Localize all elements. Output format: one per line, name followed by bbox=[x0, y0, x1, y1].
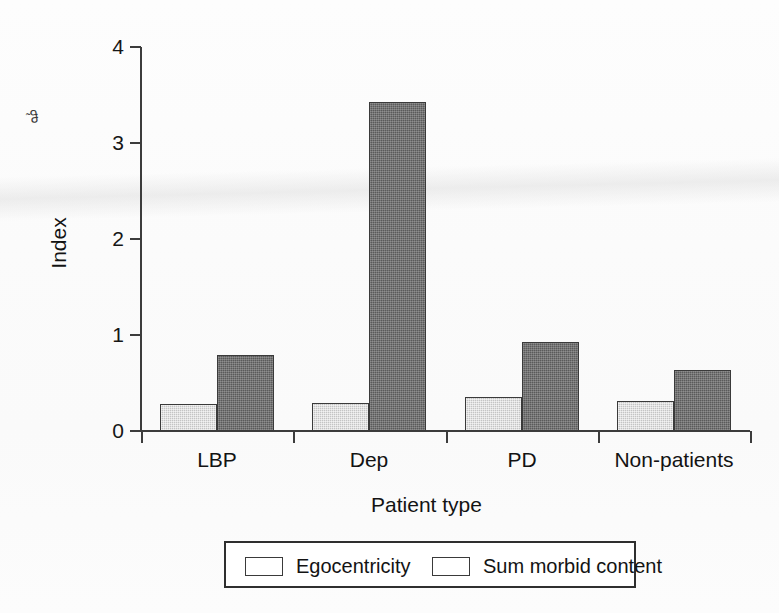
x-tick-4 bbox=[750, 431, 752, 443]
legend-entry-egocentricity: Egocentricity bbox=[245, 553, 411, 579]
y-tick-2 bbox=[130, 238, 141, 240]
y-tick-label-text: 0 bbox=[94, 420, 124, 441]
y-tick-0 bbox=[130, 430, 141, 432]
x-tick-1 bbox=[293, 431, 295, 443]
bar-non-patients-egocentricity bbox=[617, 401, 674, 431]
x-tick-2 bbox=[446, 431, 448, 443]
bar-chart: 01234 LBPDepPDNon-patients Index Patient… bbox=[0, 0, 779, 613]
x-axis-title-text: Patient type bbox=[371, 493, 482, 517]
x-category-label-non-patients: Non-patients bbox=[598, 448, 750, 472]
x-category-label-dep: Dep bbox=[293, 448, 445, 472]
x-tick-3 bbox=[598, 431, 600, 443]
bar-dep-sum-morbid-content bbox=[369, 102, 426, 431]
bar-pd-egocentricity bbox=[465, 397, 522, 431]
legend-swatch-sum-morbid-content bbox=[432, 557, 470, 576]
legend-swatch-egocentricity bbox=[245, 557, 283, 576]
y-tick-3 bbox=[130, 142, 141, 144]
y-tick-label-0: 0 bbox=[90, 420, 124, 441]
bar-lbp-egocentricity bbox=[160, 404, 217, 431]
bar-dep-egocentricity bbox=[312, 403, 369, 431]
y-tick-label-1: 1 bbox=[90, 324, 124, 345]
y-tick-1 bbox=[130, 334, 141, 336]
y-axis-title: Index bbox=[47, 188, 71, 298]
x-category-label-pd: PD bbox=[446, 448, 598, 472]
y-tick-label-text: 3 bbox=[94, 132, 124, 153]
y-tick-4 bbox=[130, 46, 141, 48]
bar-non-patients-sum-morbid-content bbox=[674, 370, 731, 431]
bar-lbp-sum-morbid-content bbox=[217, 355, 274, 431]
y-tick-label-text: 4 bbox=[94, 36, 124, 57]
y-tick-label-2: 2 bbox=[90, 228, 124, 249]
x-category-label-lbp: LBP bbox=[141, 448, 293, 472]
legend-label-egocentricity: Egocentricity bbox=[296, 555, 411, 577]
y-tick-label-text: 1 bbox=[94, 324, 124, 345]
x-tick-0 bbox=[141, 431, 143, 443]
bar-pd-sum-morbid-content bbox=[522, 342, 579, 431]
y-tick-label-4: 4 bbox=[90, 36, 124, 57]
x-axis-title: Patient type bbox=[0, 493, 779, 517]
legend-entry-sum-morbid-content: Sum morbid content bbox=[432, 553, 662, 579]
y-tick-label-text: 2 bbox=[94, 228, 124, 249]
chart-legend: Egocentricity Sum morbid content bbox=[224, 541, 636, 588]
legend-label-sum-morbid-content: Sum morbid content bbox=[483, 555, 662, 577]
y-tick-label-3: 3 bbox=[90, 132, 124, 153]
